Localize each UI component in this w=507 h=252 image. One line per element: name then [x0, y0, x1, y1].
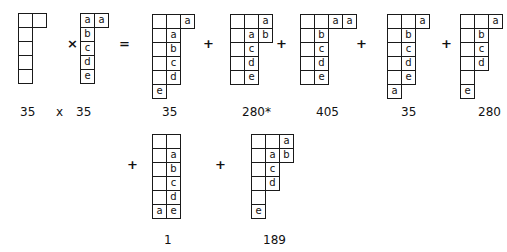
tableau-cell-empty [251, 162, 266, 177]
tableau-cell-e: e [152, 84, 167, 99]
tableau-cell-b: b [279, 148, 294, 163]
tableau-cell-b: b [166, 162, 181, 177]
tableau-cell-empty [152, 14, 167, 29]
tableau-cell-a: a [258, 14, 273, 29]
tableau-cell-empty [460, 70, 475, 85]
tableau-cell-d: d [401, 56, 416, 71]
dimension-label: 35 [162, 105, 177, 119]
tableau-cell-empty [152, 162, 167, 177]
tableau-cell-e: e [401, 70, 416, 85]
tableau-cell-a: a [415, 14, 430, 29]
tableau-cell-e: e [314, 70, 329, 85]
tableau-cell-empty [460, 14, 475, 29]
tableau-cell-empty [166, 14, 181, 29]
tableau-cell-empty [300, 14, 315, 29]
tableau-cell-e: e [251, 204, 266, 219]
tableau-cell-empty [387, 28, 402, 43]
tableau-cell-e: e [80, 69, 95, 84]
tableau-cell-b: b [80, 27, 95, 42]
tableau-cell-e: e [244, 70, 259, 85]
plus-operator: + [276, 36, 287, 51]
tableau-cell-empty [18, 41, 33, 56]
plus-operator: + [441, 36, 452, 51]
tableau-cell-empty [300, 28, 315, 43]
tableau-cell-empty [18, 13, 33, 28]
plus-operator: + [356, 36, 367, 51]
dimension-label: 35 [20, 105, 35, 119]
tableau-cell-a: a [342, 14, 357, 29]
tableau-cell-empty [460, 28, 475, 43]
tableau-cell-empty [230, 42, 245, 57]
tableau-cell-empty [401, 14, 416, 29]
tableau-cell-a: a [265, 148, 280, 163]
tableau-cell-empty [18, 55, 33, 70]
tableau-cell-empty [251, 190, 266, 205]
tableau-cell-empty [387, 14, 402, 29]
tableau-cell-empty [152, 28, 167, 43]
tableau-cell-d: d [314, 56, 329, 71]
tableau-cell-c: c [166, 176, 181, 191]
tableau-cell-empty [265, 134, 280, 149]
tableau-cell-empty [18, 69, 33, 84]
tableau-cell-empty [474, 14, 489, 29]
tableau-cell-empty [152, 70, 167, 85]
tableau-cell-empty [32, 13, 47, 28]
tableau-cell-c: c [474, 42, 489, 57]
plus-operator: + [203, 36, 214, 51]
tableau-cell-b: b [474, 28, 489, 43]
dimension-label: 1 [164, 233, 172, 247]
tableau-cell-b: b [166, 42, 181, 57]
tableau-cell-c: c [401, 42, 416, 57]
tableau-cell-d: d [166, 70, 181, 85]
tableau-cell-b: b [258, 28, 273, 43]
tableau-cell-e: e [166, 204, 181, 219]
tableaux-diagram: × = + + + + + + 35 x 35 35 280* 405 35 2… [0, 0, 507, 252]
tableau-cell-d: d [474, 56, 489, 71]
tableau-cell-empty [230, 70, 245, 85]
tableau-cell-empty [152, 42, 167, 57]
tableau-cell-empty [460, 42, 475, 57]
tableau-cell-empty [230, 14, 245, 29]
tableau-cell-empty [300, 56, 315, 71]
tableau-cell-c: c [244, 42, 259, 57]
tableau-cell-empty [230, 28, 245, 43]
tableau-cell-empty [152, 176, 167, 191]
tableau-cell-a: a [328, 14, 343, 29]
tableau-cell-empty [166, 134, 181, 149]
tableau-cell-a: a [80, 13, 95, 28]
equals-operator: = [119, 36, 130, 51]
tableau-cell-a: a [166, 28, 181, 43]
tableau-cell-a: a [166, 148, 181, 163]
tableau-cell-d: d [265, 176, 280, 191]
tableau-cell-empty [152, 134, 167, 149]
dimension-label: 35 [76, 105, 91, 119]
times-operator: × [67, 36, 78, 51]
tableau-cell-empty [460, 56, 475, 71]
tableau-cell-c: c [265, 162, 280, 177]
tableau-cell-empty [152, 56, 167, 71]
tableau-cell-empty [314, 14, 329, 29]
tableau-cell-a: a [180, 14, 195, 29]
tableau-cell-empty [152, 190, 167, 205]
dimension-label: 189 [263, 233, 286, 247]
tableau-cell-empty [244, 14, 259, 29]
tableau-cell-e: e [460, 84, 475, 99]
tableau-cell-a: a [488, 14, 503, 29]
tableau-cell-a: a [152, 204, 167, 219]
plus-operator: + [215, 157, 226, 172]
tableau-cell-a: a [387, 84, 402, 99]
tableau-cell-empty [152, 148, 167, 163]
tableau-cell-empty [300, 42, 315, 57]
tableau-cell-d: d [80, 55, 95, 70]
tableau-cell-d: d [244, 56, 259, 71]
dimension-label: 405 [316, 105, 339, 119]
tableau-cell-a: a [279, 134, 294, 149]
tableau-cell-empty [300, 70, 315, 85]
plus-operator: + [127, 157, 138, 172]
dimension-label: 35 [401, 105, 416, 119]
tableau-cell-empty [387, 42, 402, 57]
tableau-cell-c: c [80, 41, 95, 56]
tableau-cell-b: b [401, 28, 416, 43]
tableau-cell-empty [230, 56, 245, 71]
tableau-cell-empty [387, 56, 402, 71]
